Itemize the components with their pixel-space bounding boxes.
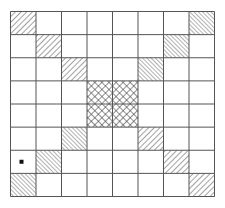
grid-board: [10, 11, 215, 197]
cell-hatch-back: [36, 35, 62, 58]
cell-hatch-back: [189, 173, 215, 196]
cell-crosshatch: [87, 81, 113, 104]
cell-hatch-fwd: [36, 150, 62, 173]
cell-hatch-back: [11, 12, 37, 35]
cell-hatch-fwd: [189, 12, 215, 35]
grid-canvas: [10, 11, 215, 197]
cell-hatch-fwd: [62, 127, 88, 150]
cell-crosshatch: [113, 104, 139, 127]
cell-hatch-back: [138, 127, 164, 150]
marker-square-icon: [20, 160, 24, 164]
cell-hatch-back: [164, 150, 190, 173]
cell-crosshatch: [113, 81, 139, 104]
cell-crosshatch: [87, 104, 113, 127]
cell-hatch-fwd: [164, 35, 190, 58]
cell-hatch-back: [62, 58, 88, 81]
cell-hatch-fwd: [138, 58, 164, 81]
cell-hatch-fwd: [11, 173, 37, 196]
marker: [20, 160, 24, 164]
